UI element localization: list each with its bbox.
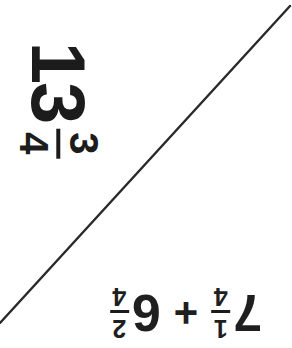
answer-fraction-bar bbox=[57, 128, 61, 158]
problem-second-term: 6 2 4 bbox=[110, 283, 161, 341]
problem-first-fraction-numerator: 1 bbox=[214, 316, 228, 342]
problem-plus-operator: + bbox=[174, 292, 199, 334]
problem-second-fraction-denominator: 4 bbox=[112, 284, 126, 310]
answer-fraction-denominator: 4 bbox=[14, 132, 55, 154]
answer-fraction-numerator: 3 bbox=[64, 132, 105, 154]
problem-second-whole-number: 6 bbox=[133, 287, 161, 336]
problem-expression: 7 1 4 + 6 2 4 bbox=[110, 283, 262, 341]
problem-first-fraction-denominator: 4 bbox=[214, 284, 228, 310]
problem-first-term: 7 1 4 bbox=[211, 283, 262, 341]
problem-first-whole-number: 7 bbox=[234, 287, 262, 336]
answer-mixed-number: 13 3 4 bbox=[12, 42, 105, 159]
answer-whole-number: 13 bbox=[22, 42, 94, 123]
problem-second-fraction-numerator: 2 bbox=[112, 316, 126, 342]
scanned-worksheet-page: 13 3 4 7 1 4 + 6 2 4 bbox=[0, 0, 292, 348]
answer-fraction: 3 4 bbox=[12, 128, 105, 158]
problem-first-fraction: 1 4 bbox=[211, 283, 230, 341]
problem-second-fraction: 2 4 bbox=[110, 283, 129, 341]
